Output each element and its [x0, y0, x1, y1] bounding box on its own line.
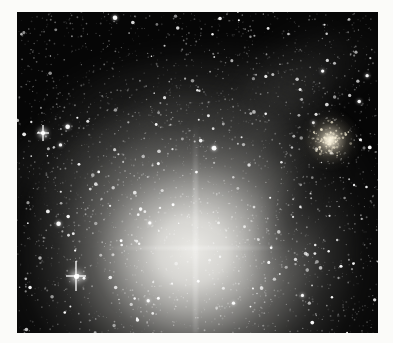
- astronomical-photograph: [17, 12, 378, 333]
- page-background: [0, 0, 393, 343]
- starfield: [17, 12, 378, 333]
